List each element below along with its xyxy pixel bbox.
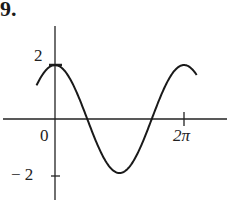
x-label-2pi: 2π [173,126,190,146]
y-label-2: 2 [34,46,43,66]
y-label-neg2: − 2 [11,165,33,185]
plot-area [0,0,227,200]
x-label-0: 0 [40,126,49,146]
